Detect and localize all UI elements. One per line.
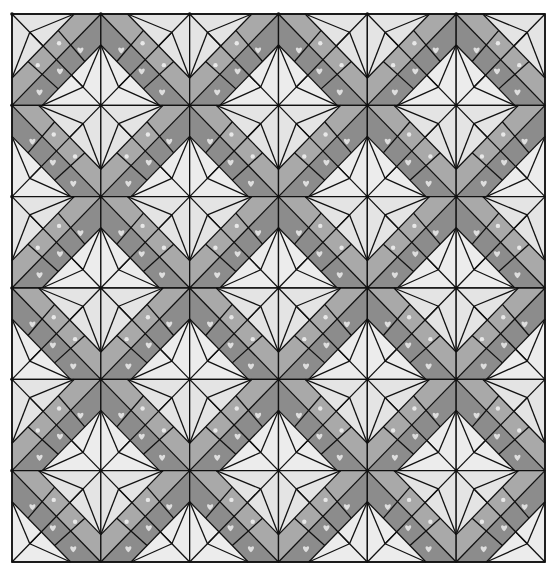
flower-motif xyxy=(229,132,233,136)
quilt-block xyxy=(10,378,101,471)
quilt-block xyxy=(454,195,545,288)
flower-motif xyxy=(124,154,128,158)
quilt-block xyxy=(366,378,457,471)
flower-motif xyxy=(407,315,411,319)
quilt-block xyxy=(99,104,190,197)
flower-motif xyxy=(339,428,343,432)
seam-junction xyxy=(277,378,281,382)
seam-junction xyxy=(99,104,103,108)
quilt-block xyxy=(99,12,190,105)
flower-motif xyxy=(318,406,322,410)
flower-motif xyxy=(480,154,484,158)
flower-motif xyxy=(407,498,411,502)
flower-motif xyxy=(73,337,77,341)
quilt-block xyxy=(454,104,545,197)
quilt-block xyxy=(366,12,457,105)
flower-motif xyxy=(162,63,166,67)
flower-motif xyxy=(36,246,40,250)
flower-motif xyxy=(339,63,343,67)
quilt-block xyxy=(99,378,190,471)
quilt-block xyxy=(277,195,368,288)
quilt-block xyxy=(366,469,457,562)
seam-junction xyxy=(99,469,103,473)
seam-junction xyxy=(99,378,103,382)
seam-junction xyxy=(277,469,281,473)
flower-motif xyxy=(517,428,521,432)
quilt-block xyxy=(277,469,368,562)
flower-motif xyxy=(213,63,217,67)
flower-motif xyxy=(229,498,233,502)
flower-motif xyxy=(140,224,144,228)
flower-motif xyxy=(146,498,150,502)
flower-motif xyxy=(146,315,150,319)
quilt-block xyxy=(10,104,101,197)
flower-motif xyxy=(496,41,500,45)
seam-junction xyxy=(454,378,458,382)
quilt-block xyxy=(188,469,279,562)
flower-motif xyxy=(57,406,61,410)
flower-motif xyxy=(428,337,432,341)
flower-motif xyxy=(52,132,56,136)
quilt-block xyxy=(454,12,545,105)
flower-motif xyxy=(412,406,416,410)
flower-motif xyxy=(124,520,128,524)
flower-motif xyxy=(517,63,521,67)
flower-motif xyxy=(73,154,77,158)
flower-motif xyxy=(428,154,432,158)
quilt-block xyxy=(188,286,279,379)
flower-motif xyxy=(412,41,416,45)
flower-motif xyxy=(480,520,484,524)
quilt-block xyxy=(188,12,279,105)
flower-motif xyxy=(412,224,416,228)
quilt-block xyxy=(366,104,457,197)
seam-junction xyxy=(454,286,458,290)
quilt-block xyxy=(277,12,368,105)
flower-motif xyxy=(318,224,322,228)
quilt-svg xyxy=(0,0,558,575)
flower-motif xyxy=(57,41,61,45)
flower-motif xyxy=(407,132,411,136)
seam-junction xyxy=(366,195,370,199)
flower-motif xyxy=(480,337,484,341)
flower-motif xyxy=(124,337,128,341)
flower-motif xyxy=(52,315,56,319)
flower-motif xyxy=(496,406,500,410)
flower-motif xyxy=(501,498,505,502)
seam-junction xyxy=(366,469,370,473)
flower-motif xyxy=(73,520,77,524)
quilt-block xyxy=(10,286,101,379)
flower-motif xyxy=(36,428,40,432)
flower-motif xyxy=(323,132,327,136)
flower-motif xyxy=(302,337,306,341)
seam-junction xyxy=(454,195,458,199)
flower-motif xyxy=(162,246,166,250)
seam-junction xyxy=(188,286,192,290)
flower-motif xyxy=(501,315,505,319)
quilt-block xyxy=(99,195,190,288)
flower-motif xyxy=(235,406,239,410)
quilt-block xyxy=(366,195,457,288)
quilt-diagram xyxy=(0,0,558,575)
flower-motif xyxy=(251,337,255,341)
flower-motif xyxy=(391,246,395,250)
flower-motif xyxy=(36,63,40,67)
quilt-block xyxy=(188,378,279,471)
flower-motif xyxy=(235,41,239,45)
seam-junction xyxy=(99,195,103,199)
flower-motif xyxy=(517,246,521,250)
flower-motif xyxy=(162,428,166,432)
flower-motif xyxy=(428,520,432,524)
quilt-block xyxy=(99,469,190,562)
flower-motif xyxy=(52,498,56,502)
seam-junction xyxy=(454,469,458,473)
quilt-block xyxy=(10,195,101,288)
quilt-block xyxy=(366,286,457,379)
quilt-block xyxy=(99,286,190,379)
seam-junction xyxy=(366,378,370,382)
flower-motif xyxy=(339,246,343,250)
flower-motif xyxy=(213,428,217,432)
quilt-block xyxy=(277,286,368,379)
flower-motif xyxy=(229,315,233,319)
flower-motif xyxy=(213,246,217,250)
quilt-block xyxy=(277,378,368,471)
